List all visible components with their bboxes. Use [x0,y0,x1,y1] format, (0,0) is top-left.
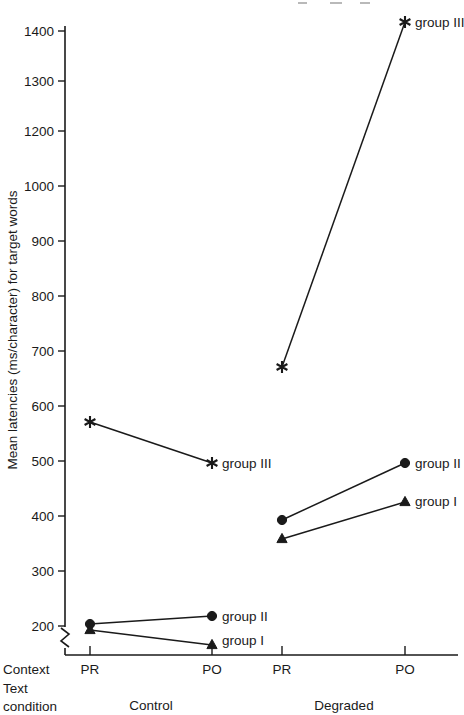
y-axis-ticks [58,31,65,626]
x-tick-label-po-degraded: PO [395,662,415,677]
axis-row-labels: Context Text condition [3,662,57,714]
y-axis-title: Mean latencies (ms/character) for target… [5,190,20,469]
series-label-group2-degraded: group II [415,456,461,471]
series-label-group3-degraded: group III [415,15,464,30]
y-tick-label: 700 [31,344,54,359]
y-tick-label: 900 [31,234,54,249]
line-chart: 1400 1300 1200 1000 900 800 700 600 500 … [0,0,464,715]
x-axis-tick-labels: PR PO PR PO [81,662,415,677]
row-label-condition: condition [3,699,57,714]
x-axis: PR PO PR PO Control Degraded Context Tex… [3,646,458,714]
series-label-group1-control: group I [222,633,264,648]
series-label-group2-control: group II [222,609,268,624]
series-group2-degraded: group II [277,456,460,525]
y-axis-break-icon [61,628,69,647]
y-tick-label: 600 [31,399,54,414]
y-tick-label: 800 [31,289,54,304]
series-label-group3-control: group III [222,456,272,471]
series-group1-degraded: group I [277,494,457,543]
x-tick-label-pr-control: PR [81,662,100,677]
x-tick-label-pr-degraded: PR [273,662,292,677]
marker-triangle [400,496,410,505]
y-tick-label: 1300 [24,74,54,89]
y-axis-tick-labels: 1400 1300 1200 1000 900 800 700 600 500 … [24,24,54,634]
x-group-label-control: Control [129,698,173,713]
x-axis-group-labels: Control Degraded [129,698,373,713]
series-label-group1-degraded: group I [415,494,457,509]
x-tick-label-po-control: PO [202,662,222,677]
series-group3-degraded: group III [277,15,464,373]
marker-star [400,16,411,28]
figure-container: 1400 1300 1200 1000 900 800 700 600 500 … [0,0,464,715]
series-group2-control: group II [85,609,267,629]
y-tick-label: 300 [31,564,54,579]
y-tick-label: 500 [31,454,54,469]
y-tick-label: 1000 [24,179,54,194]
marker-star [85,416,96,428]
marker-circle [277,515,286,524]
row-label-text: Text [3,681,28,696]
series-group3-control: group III [85,416,272,471]
y-tick-label: 400 [31,509,54,524]
y-tick-label: 1400 [24,24,54,39]
clipped-caption-fragments [298,2,370,4]
series-group1-control: group I [85,624,264,648]
marker-circle [400,458,409,467]
row-label-context: Context [3,662,50,677]
y-axis: 1400 1300 1200 1000 900 800 700 600 500 … [5,24,69,655]
marker-star [277,361,288,373]
y-tick-label: 200 [31,619,54,634]
y-tick-label: 1200 [24,124,54,139]
marker-star [207,457,218,469]
x-group-label-degraded: Degraded [314,698,373,713]
marker-circle [207,611,216,620]
